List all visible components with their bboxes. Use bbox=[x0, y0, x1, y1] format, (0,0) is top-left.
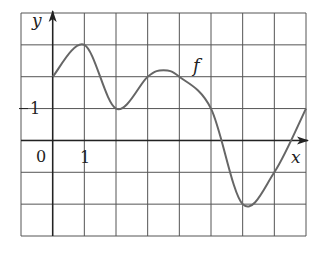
grid bbox=[21, 13, 306, 236]
function-graph: y x f 0 1 1 bbox=[0, 0, 327, 263]
y-axis-label: y bbox=[31, 10, 42, 30]
curve-label: f bbox=[191, 55, 203, 76]
y-tick-label-1: 1 bbox=[30, 99, 40, 118]
x-tick-label-1: 1 bbox=[80, 148, 90, 167]
x-axis-label: x bbox=[291, 147, 301, 167]
origin-label: 0 bbox=[36, 147, 46, 166]
axes bbox=[19, 10, 309, 236]
